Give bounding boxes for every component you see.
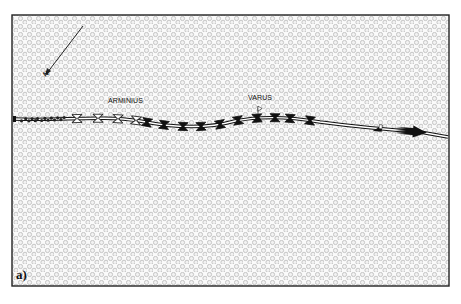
panel-label: a) xyxy=(16,267,27,283)
battle-map xyxy=(0,0,461,304)
varus-label: VARUS xyxy=(248,94,272,101)
route-start-bar xyxy=(13,116,16,122)
forest-pattern xyxy=(12,15,449,286)
arminius-label: ARMINIUS xyxy=(108,97,143,104)
